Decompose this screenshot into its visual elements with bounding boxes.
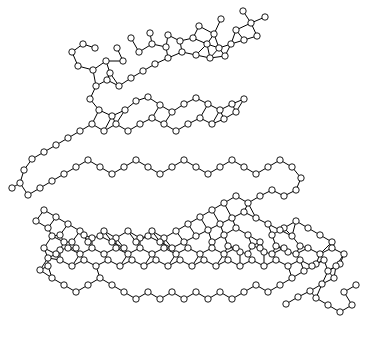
atom [121, 289, 127, 295]
atom [181, 239, 187, 245]
atom [317, 232, 323, 238]
atom [319, 281, 325, 287]
atom [173, 251, 179, 257]
atom [265, 164, 271, 170]
atom [17, 180, 23, 186]
atom [140, 68, 146, 74]
atom [53, 251, 59, 257]
atom [69, 49, 75, 55]
atom [41, 149, 47, 155]
atom [129, 257, 135, 263]
atom [269, 187, 275, 193]
atom [293, 187, 299, 193]
atom [169, 245, 175, 251]
atom [125, 251, 131, 257]
atom [75, 63, 81, 69]
atom [45, 225, 51, 231]
atom [125, 228, 131, 234]
atom [185, 221, 191, 227]
atom [157, 171, 163, 177]
atom [141, 263, 147, 269]
atom [117, 263, 123, 269]
atom [289, 233, 295, 239]
atom [228, 41, 234, 47]
atom [149, 41, 155, 47]
atom [77, 251, 83, 257]
atom [177, 257, 183, 263]
atom [185, 245, 191, 251]
atom [217, 221, 223, 227]
atom [253, 171, 259, 177]
atom [265, 221, 271, 227]
atom [41, 245, 47, 251]
atom [179, 49, 185, 55]
atom [89, 121, 95, 127]
atom [109, 239, 115, 245]
atom [209, 121, 215, 127]
atom [341, 251, 347, 257]
atom [149, 251, 155, 257]
atom [97, 233, 103, 239]
atom [277, 157, 283, 163]
atom [169, 164, 175, 170]
atom [105, 257, 111, 263]
atom [69, 263, 75, 269]
atom [233, 27, 239, 33]
atom [161, 121, 167, 127]
atom [253, 215, 259, 221]
atom [265, 289, 271, 295]
atom [297, 257, 303, 263]
atom [145, 289, 151, 295]
atom [241, 96, 247, 102]
atom [177, 38, 183, 44]
atom [136, 49, 142, 55]
atom [196, 23, 202, 29]
atom [281, 193, 287, 199]
atom [305, 225, 311, 231]
atom [233, 245, 239, 251]
atom [157, 102, 163, 108]
atom [281, 245, 287, 251]
atom [277, 282, 283, 288]
atom [61, 282, 67, 288]
atom [153, 257, 159, 263]
atom [301, 268, 307, 274]
atom [29, 156, 35, 162]
atom [262, 14, 268, 20]
atom [9, 185, 15, 191]
atom [107, 70, 113, 76]
atom [77, 128, 83, 134]
atom [353, 282, 359, 288]
atom [293, 251, 299, 257]
atom [53, 142, 59, 148]
atom [149, 115, 155, 121]
atom [33, 218, 39, 224]
atom [273, 257, 279, 263]
atom [65, 245, 71, 251]
atom [257, 245, 263, 251]
atom [133, 239, 139, 245]
atom [49, 178, 55, 184]
atom [221, 200, 227, 206]
atom [233, 193, 239, 199]
atom [163, 44, 169, 50]
atom [73, 289, 79, 295]
atom [325, 268, 331, 274]
atom [205, 101, 211, 107]
atom [221, 251, 227, 257]
atom [65, 221, 71, 227]
atom [233, 109, 239, 115]
atom [249, 243, 255, 249]
atom [109, 113, 115, 119]
atom [101, 251, 107, 257]
atom-layer [9, 8, 359, 315]
atom [307, 288, 313, 294]
atom [57, 257, 63, 263]
atom [229, 101, 235, 107]
atom [165, 32, 171, 38]
atom [133, 98, 139, 104]
atom [229, 296, 235, 302]
atom [218, 16, 224, 22]
atom [273, 243, 279, 249]
atom [213, 263, 219, 269]
